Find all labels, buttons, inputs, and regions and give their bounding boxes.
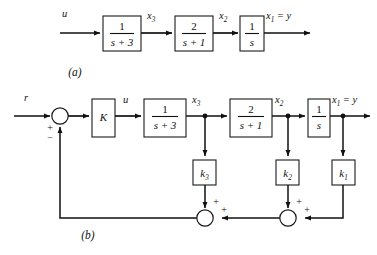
block-2-over-s-plus-1-a-denominator: s + 1 [183, 36, 206, 48]
block-diagram-figure: u 1 s + 3 x3 2 s + 1 x2 1 [0, 0, 377, 255]
diagram-a: u 1 s + 3 x3 2 s + 1 x2 1 [60, 8, 310, 79]
block-1-over-s-plus-3-b-denominator: s + 3 [154, 119, 177, 131]
block-1-over-s-plus-3-a-numerator: 1 [119, 20, 125, 32]
wire-k1-to-sum-right [305, 185, 343, 218]
caption-a: (a) [68, 66, 82, 79]
sign-feedback-minus: − [47, 132, 53, 143]
block-2-over-s-plus-1-b-denominator: s + 1 [240, 119, 263, 131]
block-1-over-s-a-denominator: s [250, 36, 254, 48]
feedback-sum-right-sign-right: + [304, 204, 310, 215]
feedback-sum-left [197, 210, 213, 226]
label-u-b: u [123, 94, 128, 105]
block-2-over-s-plus-1-b-numerator: 2 [248, 103, 254, 115]
label-x1-equals-y-a: x1= y [265, 10, 291, 24]
label-u-a: u [62, 8, 67, 19]
block-1-over-s-plus-3-b-numerator: 1 [162, 103, 168, 115]
block-1-over-s-b-numerator: 1 [316, 103, 322, 115]
label-r: r [24, 92, 29, 103]
block-1-over-s-b-denominator: s [317, 119, 321, 131]
diagram-b: r + − K u 1 s + 3 x3 [14, 92, 370, 242]
block-1-over-s-plus-3-a-denominator: s + 3 [111, 36, 134, 48]
block-K-label: K [99, 111, 108, 123]
label-x3-a: x3 [146, 10, 156, 24]
feedback-sum-right-sign-top: + [296, 196, 302, 207]
feedback-sum-left-sign-top: + [213, 196, 219, 207]
block-2-over-s-plus-1-a-numerator: 2 [191, 20, 197, 32]
caption-b: (b) [81, 229, 95, 242]
label-x2-b: x2 [274, 94, 284, 108]
wire-feedback-to-input-sum [60, 127, 197, 218]
feedback-sum-right [280, 210, 296, 226]
label-x1-equals-y-b: x1= y [331, 94, 357, 108]
feedback-sum-left-sign-right: + [221, 204, 227, 215]
block-1-over-s-a-numerator: 1 [249, 20, 255, 32]
input-summing-junction [52, 108, 68, 124]
label-x3-b: x3 [191, 94, 201, 108]
label-x2-a: x2 [218, 10, 228, 24]
block-diagram-svg: u 1 s + 3 x3 2 s + 1 x2 1 [0, 0, 377, 255]
